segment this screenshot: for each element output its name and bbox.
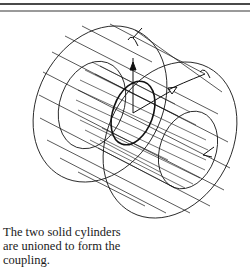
top-rule-gray	[0, 10, 250, 12]
caption-line-3: coupling.	[3, 253, 133, 267]
inner-cylinder	[47, 52, 228, 197]
caption-line-1: The two solid cylinders	[3, 225, 133, 239]
top-rule-dark	[0, 3, 250, 5]
outer-cylinder	[7, 14, 250, 224]
coupling-wireframe-figure	[0, 14, 250, 224]
figure-caption: The two solid cylinders are unioned to f…	[3, 225, 133, 267]
caption-line-2: are unioned to form the	[3, 239, 133, 253]
